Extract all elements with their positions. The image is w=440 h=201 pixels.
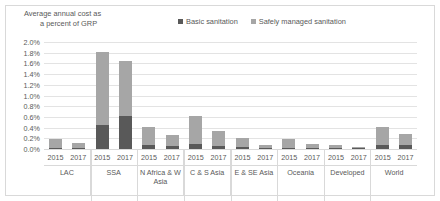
chart-axis-title-line-1: Average annual cost as [24,9,101,18]
bar-segment-safely-managed-sanitation[interactable] [119,61,132,116]
x-axis-category-label: LAC [44,165,90,196]
bar-stack[interactable] [72,42,85,149]
x-axis-category-label: Oceania [278,165,324,196]
x-axis-year-label: 2017 [207,153,230,162]
x-axis-year-label: 2015 [138,153,161,162]
x-axis-year-label: 2017 [67,153,90,162]
x-axis-year-label: 2017 [347,153,370,162]
x-axis: 20152017LAC20152017SSA20152017N Africa &… [44,149,417,196]
x-axis-category-label: E & SE Asia [231,165,277,196]
x-axis-year-label: 2017 [160,153,183,162]
chart-bars [44,42,417,149]
x-axis-year-label: 2017 [394,153,417,162]
legend-item-safely-managed-sanitation[interactable]: Safely managed sanitation [251,17,346,26]
y-axis-tick-label: 0.4% [24,124,40,133]
y-axis-labels: 2.0%1.8%1.6%1.4%1.2%1.0%0.8%0.6%0.4%0.2%… [8,36,40,155]
bar-stack[interactable] [259,42,272,149]
y-axis-tick-label: 0.6% [24,113,40,122]
x-axis-year-label: 2017 [254,153,277,162]
bar-group [324,42,371,149]
x-axis-category-label: Developed [325,165,371,196]
bar-group [370,42,417,149]
bar-segment-safely-managed-sanitation[interactable] [376,127,389,146]
y-axis-tick-label: 1.8% [24,49,40,58]
y-axis-tick-label: 1.0% [24,92,40,101]
x-axis-year-label: 2015 [231,153,254,162]
chart-axis-title-line-2: a percent of GRP [24,19,154,29]
chart-plot-area [44,42,417,149]
x-axis-category-label: C & S Asia [184,165,230,196]
legend-swatch-basic-sanitation [178,19,183,24]
x-axis-year-label: 2015 [278,153,301,162]
bar-segment-safely-managed-sanitation[interactable] [142,127,155,146]
chart-container: Average annual cost as a percent of GRP … [0,0,440,201]
x-axis-category-label: N Africa & W Asia [138,165,184,196]
bar-stack[interactable] [166,42,179,149]
x-axis-year-label: 2017 [114,153,137,162]
bar-segment-basic-sanitation[interactable] [119,116,132,149]
y-axis-tick-label: 0.2% [24,134,40,143]
bar-stack[interactable] [236,42,249,149]
bar-stack[interactable] [49,42,62,149]
x-axis-group: 20152017LAC [44,150,90,196]
legend-item-basic-sanitation[interactable]: Basic sanitation [178,17,238,26]
bar-segment-safely-managed-sanitation[interactable] [96,52,109,125]
bar-segment-safely-managed-sanitation[interactable] [212,131,225,145]
x-axis-group: 20152017Oceania [277,150,324,196]
x-axis-group: 20152017Developed [324,150,371,196]
bar-stack[interactable] [212,42,225,149]
bar-group [184,42,231,149]
y-axis-tick-label: 1.4% [24,70,40,79]
bar-group [44,42,91,149]
x-axis-category-label: SSA [91,165,137,196]
bar-stack[interactable] [376,42,389,149]
chart-legend: Basic sanitation Safely managed sanitati… [178,17,346,26]
bar-segment-safely-managed-sanitation[interactable] [49,139,62,148]
bar-stack[interactable] [96,42,109,149]
legend-swatch-safely-managed-sanitation [251,19,256,24]
x-axis-year-label: 2015 [91,153,114,162]
bar-stack[interactable] [352,42,365,149]
bar-stack[interactable] [119,42,132,149]
x-axis-group: 20152017C & S Asia [183,150,230,196]
x-axis-year-label: 2015 [325,153,348,162]
x-axis-year-label: 2015 [184,153,207,162]
bar-group [231,42,278,149]
y-axis-tick-label: 2.0% [24,38,40,47]
bar-segment-basic-sanitation[interactable] [96,125,109,149]
bar-segment-safely-managed-sanitation[interactable] [236,138,249,147]
bar-stack[interactable] [306,42,319,149]
bar-segment-safely-managed-sanitation[interactable] [282,139,295,148]
bar-segment-safely-managed-sanitation[interactable] [189,116,202,144]
bar-group [91,42,138,149]
y-axis-tick-label: 1.6% [24,59,40,68]
x-axis-year-label: 2017 [301,153,324,162]
bar-segment-safely-managed-sanitation[interactable] [399,134,412,146]
y-axis-tick-label: 1.2% [24,81,40,90]
x-axis-group: 20152017World [370,150,417,196]
x-axis-group: 20152017N Africa & W Asia [137,150,184,196]
chart-axis-title: Average annual cost as a percent of GRP [24,9,154,28]
x-axis-group: 20152017E & SE Asia [230,150,277,196]
x-axis-year-label: 2015 [44,153,67,162]
bar-stack[interactable] [282,42,295,149]
bar-group [137,42,184,149]
bar-stack[interactable] [329,42,342,149]
legend-label-safely-managed-sanitation: Safely managed sanitation [259,17,346,26]
bar-stack[interactable] [189,42,202,149]
x-axis-year-label: 2015 [371,153,394,162]
y-axis-tick-label: 0.0% [24,145,40,154]
bar-stack[interactable] [142,42,155,149]
x-axis-group: 20152017SSA [90,150,137,196]
bar-group [277,42,324,149]
y-axis-tick-label: 0.8% [24,102,40,111]
bar-stack[interactable] [399,42,412,149]
x-axis-category-label: World [371,165,417,196]
bar-segment-safely-managed-sanitation[interactable] [166,135,179,146]
legend-label-basic-sanitation: Basic sanitation [186,17,238,26]
